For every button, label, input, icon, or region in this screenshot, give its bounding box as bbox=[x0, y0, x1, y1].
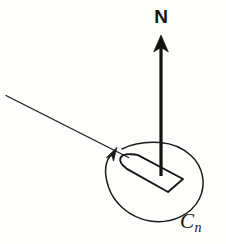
loop-label-subscript: n bbox=[194, 220, 201, 235]
tangent-line bbox=[6, 96, 129, 158]
figure-canvas: N Cn bbox=[0, 0, 226, 244]
loop-label-base: C bbox=[180, 209, 194, 233]
normal-vector-label: N bbox=[146, 6, 176, 28]
surface-patch-quadrilateral bbox=[120, 154, 183, 192]
loop-label: Cn bbox=[180, 209, 201, 240]
diagram-vector-graphic bbox=[0, 0, 226, 244]
normal-vector-arrow bbox=[154, 35, 169, 176]
